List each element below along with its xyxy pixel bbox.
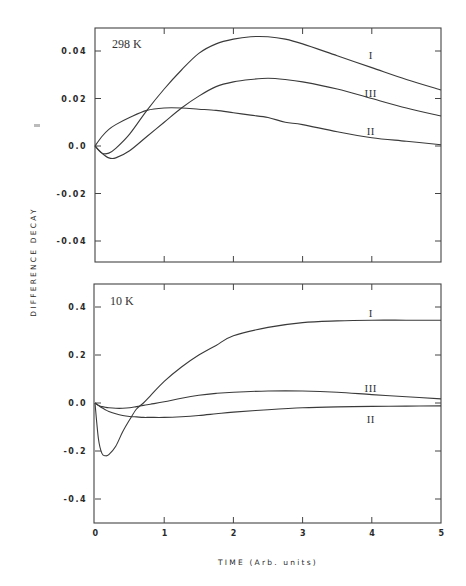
tick-marks — [95, 28, 441, 262]
curve-labels: IIIIII — [365, 307, 378, 425]
y-tick-label: 0.04 — [61, 47, 87, 56]
y-tick-label: 0.0 — [68, 142, 87, 151]
x-tick-label: 1 — [162, 529, 169, 538]
curves — [95, 36, 441, 158]
curve-label-i: I — [369, 307, 373, 319]
x-tick-label: 4 — [369, 529, 376, 538]
x-tick-label: 3 — [300, 529, 307, 538]
curve-ii — [95, 108, 441, 146]
curves — [95, 320, 441, 456]
scan-artifact — [34, 124, 40, 127]
curve-label-i: I — [369, 49, 373, 61]
curve-iii — [95, 78, 441, 158]
curve-label-iii: III — [365, 382, 378, 394]
y-tick-label: -0.4 — [64, 495, 88, 504]
x-axis-title: TIME (Arb. units) — [217, 558, 318, 567]
x-tick-label: 0 — [92, 529, 99, 538]
curve-labels: IIIIII — [365, 49, 378, 137]
difference-decay-figure: DIFFERENCE DECAY TIME (Arb. units) 0.040… — [0, 0, 466, 586]
y-axis-title: DIFFERENCE DECAY — [29, 207, 38, 316]
curve-label-ii: II — [367, 125, 375, 137]
y-tick-label: 0.4 — [68, 303, 87, 312]
y-tick-label: -0.02 — [56, 190, 87, 199]
y-tick-label: 0.02 — [61, 95, 87, 104]
panel-10k: 0.40.20.0-0.2-0.4 012345 IIIIII 10 K — [64, 284, 446, 538]
x-tick-label: 5 — [438, 529, 445, 538]
curve-label-ii: II — [367, 413, 375, 425]
curve-label-iii: III — [365, 87, 378, 99]
panel-title: 298 K — [112, 37, 142, 51]
panel-298k: 0.040.020.0-0.02-0.04 IIIIII 298 K — [56, 28, 441, 262]
y-tick-label: 0.2 — [68, 351, 87, 360]
x-tick-labels: 012345 — [92, 529, 445, 538]
y-tick-labels: 0.40.20.0-0.2-0.4 — [64, 303, 88, 504]
y-tick-labels: 0.040.020.0-0.02-0.04 — [56, 47, 87, 246]
y-tick-label: -0.2 — [64, 447, 88, 456]
panel-title: 10 K — [110, 294, 134, 308]
curve-i — [95, 320, 441, 456]
x-tick-label: 2 — [231, 529, 238, 538]
y-tick-label: 0.0 — [68, 399, 87, 408]
y-tick-label: -0.04 — [56, 237, 87, 246]
plot-frame — [95, 28, 441, 262]
